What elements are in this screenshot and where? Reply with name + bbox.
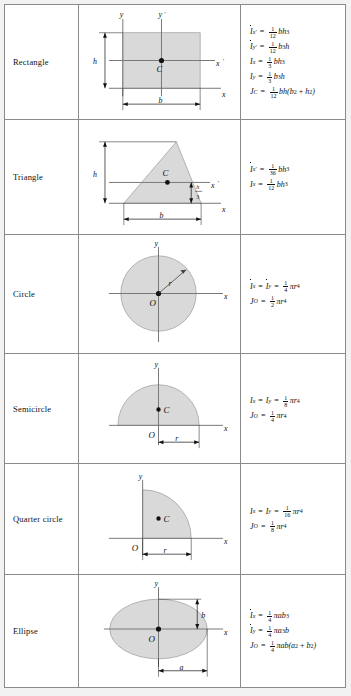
- equation: Ix'=136bh3: [250, 163, 345, 176]
- equations-triangle: Ix'=136bh3 Ix=112bh3: [241, 120, 345, 234]
- equation: Iy=14πa3b: [250, 625, 345, 638]
- svg-text:y: y: [119, 10, 124, 19]
- ellipse-diagram: y x O b a: [79, 575, 240, 687]
- semicircle-diagram: C y x O r: [79, 354, 240, 463]
- svg-text:O: O: [132, 543, 139, 553]
- svg-text:x: x: [223, 424, 228, 433]
- svg-text:y: y: [138, 472, 143, 481]
- figure-semicircle: C y x O r: [79, 354, 241, 463]
- equations-quarter-circle: Ix=Iy=116πr4 JO=18πr4: [241, 464, 345, 574]
- figure-ellipse: y x O b a: [79, 575, 241, 687]
- svg-text:C: C: [157, 64, 164, 74]
- row-label-rectangle: Rectangle: [5, 5, 79, 119]
- svg-text:O: O: [149, 430, 156, 440]
- svg-text:': ': [164, 11, 165, 17]
- svg-text:h: h: [93, 57, 97, 66]
- equations-semicircle: Ix=Iy=18πr4 JO=14πr4: [241, 354, 345, 463]
- svg-text:O: O: [149, 634, 156, 644]
- equation: Ix=Iy=116πr4: [250, 505, 345, 518]
- svg-text:C: C: [163, 405, 170, 415]
- table-row: Rectangle y y' x' x C h: [5, 5, 345, 120]
- svg-text:x: x: [223, 292, 228, 301]
- svg-text:h: h: [196, 184, 199, 190]
- table-row: Ellipse y x O b a Ix=14πab: [5, 575, 345, 687]
- equation: Ix=13bh3: [250, 56, 345, 69]
- equation: Ix=112bh3: [250, 178, 345, 191]
- table-row: Triangle C x' x h b h: [5, 120, 345, 235]
- moment-of-inertia-table: Rectangle y y' x' x C h: [4, 4, 346, 688]
- table-row: Semicircle C y x O r Ix=Iy=18πr4 JO=14πr…: [5, 354, 345, 464]
- svg-text:x: x: [223, 628, 228, 637]
- table-row: Circle y x O r Ix=Iy=14πr4 JO=12πr4: [5, 235, 345, 354]
- equation: Iy'=112b3h: [250, 41, 345, 54]
- equation: Ix'=112bh3: [250, 26, 345, 39]
- row-label-circle: Circle: [5, 235, 79, 353]
- svg-text:y: y: [154, 579, 159, 588]
- equation: Iy=13b3h: [250, 71, 345, 84]
- svg-text:C: C: [162, 168, 169, 178]
- equation: Ix=14πab3: [250, 610, 345, 623]
- quarter-circle-diagram: C y x O r: [79, 464, 240, 574]
- svg-text:a: a: [179, 663, 183, 672]
- row-label-quarter-circle: Quarter circle: [5, 464, 79, 574]
- equation: JO=14πab(a2 + b2): [250, 640, 345, 653]
- svg-text:h: h: [93, 170, 97, 179]
- svg-text:b: b: [201, 611, 205, 620]
- equations-ellipse: Ix=14πab3 Iy=14πa3b JO=14πab(a2 + b2): [241, 575, 345, 687]
- equation: JO=12πr4: [250, 295, 345, 308]
- svg-text:C: C: [163, 514, 170, 524]
- svg-text:': ': [223, 58, 224, 64]
- figure-circle: y x O r: [79, 235, 241, 353]
- equation: JO=14πr4: [250, 410, 345, 423]
- table-row: Quarter circle C y x O r Ix=Iy=116πr4 JO…: [5, 464, 345, 575]
- equation: Ix=Iy=14πr4: [250, 280, 345, 293]
- svg-text:y: y: [158, 10, 163, 19]
- svg-text:O: O: [150, 298, 157, 308]
- svg-text:': ': [218, 180, 219, 186]
- svg-text:y: y: [154, 239, 159, 248]
- svg-text:b: b: [159, 96, 163, 105]
- equation: Ix=Iy=18πr4: [250, 395, 345, 408]
- equation: JC=112bh(b2 + h2): [250, 86, 345, 99]
- equations-circle: Ix=Iy=14πr4 JO=12πr4: [241, 235, 345, 353]
- svg-text:x: x: [210, 181, 215, 190]
- row-label-ellipse: Ellipse: [5, 575, 79, 687]
- row-label-triangle: Triangle: [5, 120, 79, 234]
- svg-text:x: x: [221, 90, 226, 99]
- equation: JO=18πr4: [250, 520, 345, 533]
- svg-text:x: x: [223, 537, 228, 546]
- svg-text:y: y: [154, 360, 159, 369]
- circle-diagram: y x O r: [79, 235, 240, 353]
- figure-quarter-circle: C y x O r: [79, 464, 241, 574]
- figure-triangle: C x' x h b h 3: [79, 120, 241, 234]
- svg-text:x: x: [221, 205, 226, 214]
- equations-rectangle: Ix'=112bh3 Iy'=112b3h Ix=13bh3 Iy=13b3h …: [241, 5, 345, 119]
- svg-text:b: b: [160, 211, 164, 220]
- triangle-diagram: C x' x h b h 3: [79, 120, 240, 234]
- rectangle-diagram: y y' x' x C h b: [79, 5, 240, 119]
- figure-rectangle: y y' x' x C h b: [79, 5, 241, 119]
- svg-text:x: x: [215, 59, 220, 68]
- svg-text:3: 3: [196, 194, 199, 200]
- row-label-semicircle: Semicircle: [5, 354, 79, 463]
